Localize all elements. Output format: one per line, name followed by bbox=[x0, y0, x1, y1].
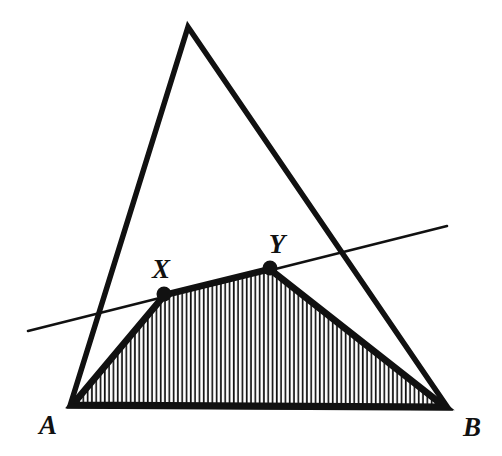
point-y-dot bbox=[263, 261, 278, 276]
label-y: Y bbox=[269, 229, 288, 259]
label-x: X bbox=[151, 254, 171, 284]
geometry-figure: A B X Y bbox=[0, 0, 502, 456]
label-b: B bbox=[462, 412, 481, 442]
figure-canvas: A B X Y bbox=[0, 0, 502, 456]
label-a: A bbox=[37, 410, 57, 440]
point-x-dot bbox=[157, 287, 172, 302]
